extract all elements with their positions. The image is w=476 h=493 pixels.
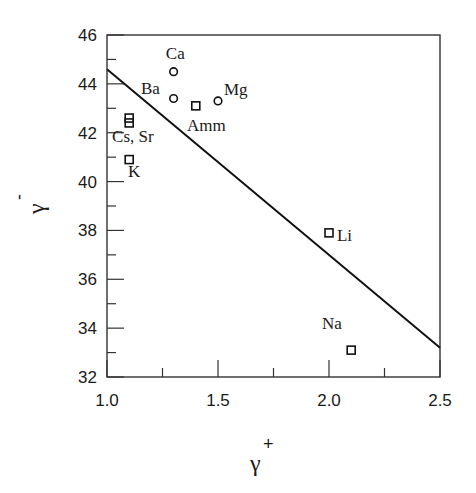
y-tick-label: 42 [78,124,97,143]
x-axis-title-superscript: + [263,434,274,454]
circle-marker-ca [170,68,178,76]
x-tick-label: 1.5 [206,391,230,410]
x-tick-label: 2.0 [317,391,341,410]
y-tick-label: 40 [78,173,97,192]
x-axis: 1.01.52.02.5 [95,360,452,410]
point-label-k: K [128,162,141,181]
data-markers [125,68,355,354]
scatter-chart: 1.01.52.02.5 3234363840424446 CaBaMgAmmC… [0,0,476,493]
square-marker-li [325,229,333,237]
point-label-na: Na [322,314,342,333]
circle-marker-mg [214,97,222,105]
circle-marker-ba [170,95,178,103]
y-tick-label: 36 [78,270,97,289]
point-label-li: Li [337,226,352,245]
y-tick-label: 46 [78,26,97,45]
x-tick-label: 2.5 [428,391,452,410]
y-axis-title: γ - [9,194,49,215]
point-label-ba: Ba [141,79,160,98]
y-axis-title-symbol: γ [23,203,49,215]
x-axis-title: γ + [249,434,274,476]
point-label-amm: Amm [187,116,226,135]
x-axis-title-symbol: γ [249,450,261,476]
square-marker-na [347,346,355,354]
y-tick-label: 34 [78,319,97,338]
square-marker-sr [125,119,133,127]
y-axis-title-superscript: - [9,194,29,200]
y-axis: 3234363840424446 [78,26,124,387]
regression-line [107,69,440,347]
fit-line [107,69,440,347]
point-label-ca: Ca [166,44,185,63]
y-tick-label: 32 [78,368,97,387]
point-labels: CaBaMgAmmCs, SrKLiNa [112,44,352,333]
square-marker-cs [125,114,133,122]
y-tick-label: 44 [78,75,97,94]
point-label-cs-sr: Cs, Sr [112,127,154,146]
x-tick-label: 1.0 [95,391,119,410]
point-label-mg: Mg [224,80,248,99]
y-tick-label: 38 [78,221,97,240]
square-marker-amm [192,102,200,110]
